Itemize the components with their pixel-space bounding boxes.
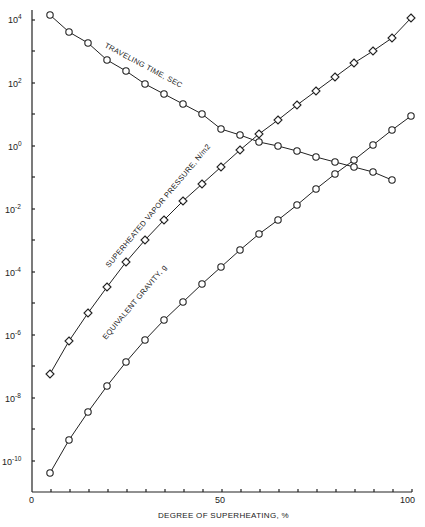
y-axis [32,10,35,492]
svg-text:10-10: 10-10 [2,455,22,467]
svg-text:102: 102 [8,77,22,89]
svg-text:10-6: 10-6 [5,329,21,341]
x-tick-50: 50 [215,495,225,505]
x-axis-title: DEGREE OF SUPERHEATING, % [158,511,289,520]
svg-text:10-2: 10-2 [5,203,21,215]
series-vapor-pressure [46,14,415,378]
svg-text:10-4: 10-4 [5,266,21,278]
y-tick-labels: 104 102 100 10-2 10-4 10-6 10-8 10-10 [2,13,22,467]
chart: 104 102 100 10-2 10-4 10-6 10-8 10-10 0 … [0,0,425,527]
x-tick-100: 100 [400,495,415,505]
svg-text:100: 100 [8,140,22,152]
x-axis [32,489,412,492]
series-traveling-time [47,12,395,183]
label-equivalent-gravity: EQUIVALENT GRAVITY, g [101,263,169,342]
x-tick-0: 0 [29,495,34,505]
svg-text:104: 104 [8,13,22,25]
svg-text:10-8: 10-8 [5,392,21,404]
label-vapor-pressure: SUPERHEATED VAPOR PRESSURE, N/m2 [104,142,213,269]
